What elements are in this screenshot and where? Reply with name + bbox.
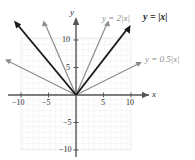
curve-label-abs-x: y = |x|	[143, 12, 168, 22]
y-tick-label-10: 10	[62, 36, 70, 44]
y-axis-label: y	[70, 8, 74, 17]
x-axis-label: x	[152, 90, 156, 99]
plot-canvas	[0, 0, 195, 160]
y-tick-label-5: 5	[66, 64, 70, 72]
x-tick-label-10: 10	[126, 99, 134, 107]
curve-label-half-abs-x: y = 0.5|x|	[145, 55, 180, 64]
y-tick-label-neg5: −5	[63, 119, 72, 127]
x-tick-label-neg10: −10	[12, 99, 25, 107]
x-tick-label-neg5: −5	[42, 99, 51, 107]
absolute-value-graph-figure: x y −10 −5 5 10 10 5 −5 −10 y = 2|x| y =…	[0, 0, 195, 160]
curve-label-2-abs-x: y = 2|x|	[102, 14, 130, 23]
x-tick-label-5: 5	[101, 99, 105, 107]
y-tick-label-neg10: −10	[59, 146, 72, 154]
